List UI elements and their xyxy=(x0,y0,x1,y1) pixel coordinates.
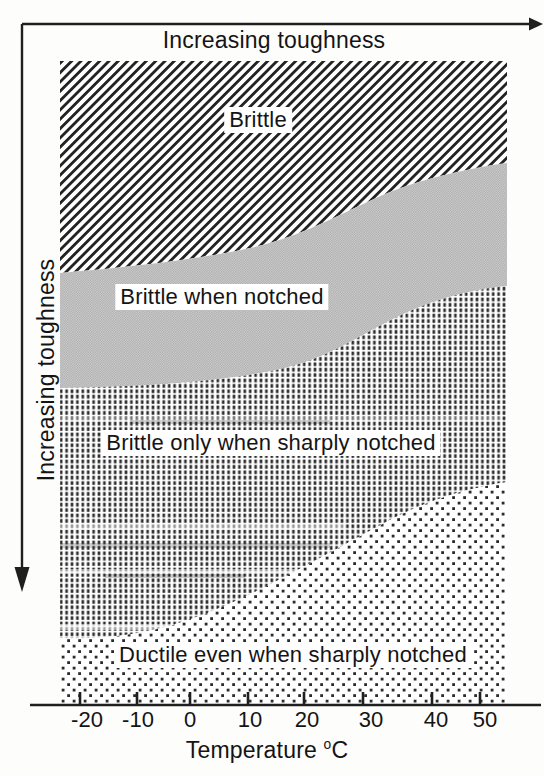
left-toughness-arrow xyxy=(15,24,30,592)
x-tick-label: 20 xyxy=(295,707,319,733)
x-tick-label: 40 xyxy=(424,707,448,733)
x-tick-label: -10 xyxy=(122,707,154,733)
x-tick-label: 10 xyxy=(238,707,262,733)
region-label-brittle-when-notched: Brittle when notched xyxy=(115,284,328,310)
x-tick-label: 0 xyxy=(184,707,196,733)
x-tick-label: -20 xyxy=(71,707,103,733)
x-axis-title-text: Temperature xyxy=(186,737,317,763)
x-axis-unit: C xyxy=(331,737,348,763)
right-arrowhead-icon xyxy=(529,18,543,31)
figure-toughness-temperature-chart: Increasing toughness Increasing toughnes… xyxy=(0,0,544,776)
x-tick-label: 50 xyxy=(473,707,497,733)
x-tick-label: 30 xyxy=(359,707,383,733)
degree-superscript: o xyxy=(324,737,332,752)
region-label-brittle-only-sharply-notched: Brittle only when sharply notched xyxy=(101,430,440,456)
region-label-ductile-sharply-notched: Ductile even when sharply notched xyxy=(114,642,472,668)
region-label-brittle: Brittle xyxy=(224,107,292,133)
x-axis-title: Temperature oC xyxy=(186,737,349,764)
left-axis-title: Increasing toughness xyxy=(33,259,60,482)
top-axis-title: Increasing toughness xyxy=(163,27,386,54)
down-arrowhead-icon xyxy=(15,567,30,592)
